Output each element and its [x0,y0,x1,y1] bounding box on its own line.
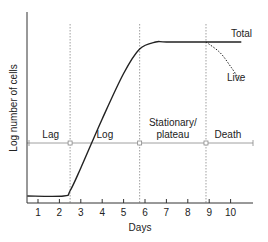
x-tick-label: 5 [121,207,127,218]
x-tick-label: 2 [57,207,63,218]
x-ticks: 12345678910 [35,199,236,218]
x-tick-label: 1 [35,207,41,218]
y-axis-label: Log number of cells [8,64,19,151]
series-label-live: Live [227,72,246,83]
phase-marker [68,141,72,145]
x-tick-label: 8 [185,207,191,218]
phase-label-stationary: Stationary/ [149,117,197,128]
x-tick-label: 7 [164,207,170,218]
growth-curve-chart: 12345678910 LagLogStationary/plateauDeat… [0,0,268,242]
series-label-total: Total [231,28,252,39]
x-tick-label: 6 [142,207,148,218]
x-tick-label: 9 [206,207,212,218]
phase-label-log: Log [97,129,114,140]
phase-label-death: Death [215,129,242,140]
phase-marker [138,141,142,145]
series-total-curve [27,41,241,196]
phase-line [27,140,253,146]
phase-label-lag: Lag [42,129,59,140]
x-axis-label: Days [129,222,152,233]
phase-labels: LagLogStationary/plateauDeath [42,117,241,140]
phase-marker [204,141,208,145]
phase-label-stationary: plateau [156,129,189,140]
x-tick-label: 4 [99,207,105,218]
series [27,41,241,196]
x-tick-label: 10 [225,207,237,218]
x-tick-label: 3 [78,207,84,218]
